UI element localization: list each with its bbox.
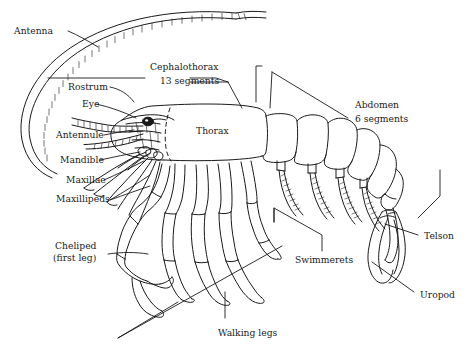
eye-leader [96,104,136,118]
carapace-shape [111,104,268,161]
crayfish-anatomy-figure: Antenna Rostrum Eye Antennule Mandible M… [0,0,476,358]
label-abdomen-line1: Abdomen [354,99,399,110]
tail-fan-shape [368,208,405,283]
label-thorax: Thorax [196,125,229,136]
walking-legs-bracket [118,246,282,338]
label-antennule: Antennule [55,129,104,140]
walking-legs-shape [162,161,281,305]
cheliped-shape [117,164,174,317]
label-mandible: Mandible [60,154,104,165]
cheliped-leader [108,253,148,255]
antennule-leader [104,130,134,135]
label-maxillipeds: Maxillipeds [56,193,110,204]
label-cheliped-line2: (first leg) [53,252,96,263]
label-uropod: Uropod [420,289,455,300]
label-cheliped-line1: Cheliped [55,240,97,251]
abdomen-bracket [256,66,348,118]
swimmerets-bracket [274,208,322,251]
eye-shape [142,117,166,126]
label-rostrum: Rostrum [68,81,108,92]
label-maxillae: Maxillae [66,174,106,185]
uropod-leader [372,262,414,292]
label-eye: Eye [82,98,99,109]
anatomy-illustration: Antenna Rostrum Eye Antennule Mandible M… [0,0,476,358]
swimmerets-shape [277,161,385,231]
mandible-leader [100,152,140,160]
label-abdomen-line2: 6 segments [355,113,409,124]
antenna-leader [68,31,98,47]
label-walking-legs: Walking legs [218,327,278,338]
label-antenna: Antenna [13,25,54,36]
label-cephalothorax-line2: 13 segments [160,75,219,86]
label-swimmerets: Swimmerets [295,254,353,265]
rostrum-leader [110,87,134,102]
label-telson: Telson [424,230,454,241]
label-cephalothorax-line1: Cephalothorax [150,61,219,72]
